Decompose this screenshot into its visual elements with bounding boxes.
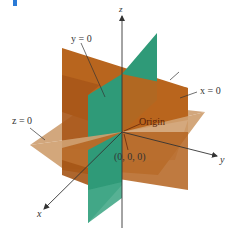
y-axis-label: y (219, 154, 225, 165)
z-axis-label: z (118, 4, 123, 14)
leader-x0-top (170, 72, 179, 80)
plane-label-z0: z = 0 (12, 115, 32, 126)
x-axis-label: x (36, 208, 42, 219)
leader-z0 (30, 128, 45, 140)
origin-coords-label: (0, 0, 0) (114, 151, 146, 163)
plane-label-y0: y = 0 (71, 33, 92, 44)
origin-label: Origin (139, 116, 165, 127)
coordinate-planes-diagram: z y x y = 0 x = 0 z = 0 Origin (0, 0, 0) (0, 0, 236, 238)
plane-label-x0: x = 0 (200, 85, 221, 96)
